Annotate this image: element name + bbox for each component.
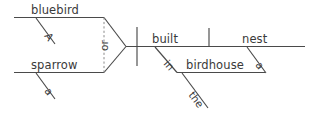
word-birdhouse-object: birdhouse — [186, 58, 244, 72]
subject-branch-bottom: sparrow a — [14, 47, 126, 100]
word-bluebird: bluebird — [31, 3, 79, 17]
sentence-diagram: bluebird A sparrow a or built — [0, 0, 313, 119]
word-a-bluebird-article: A — [42, 30, 56, 44]
predicate-group: built — [152, 32, 178, 46]
word-the-birdhouse-article: the — [186, 89, 206, 110]
word-nest-object: nest — [242, 32, 268, 46]
word-a-nest-article: a — [253, 59, 266, 71]
word-or-conjunction: or — [98, 40, 110, 51]
word-a-sparrow-article: a — [42, 85, 55, 97]
conjunction-group: or — [98, 18, 110, 73]
sentence-diagram-canvas: bluebird A sparrow a or built — [0, 0, 313, 119]
prepositional-phrase-group: in birdhouse the — [155, 47, 265, 110]
subject-branch-top: bluebird A — [14, 3, 126, 47]
word-sparrow: sparrow — [31, 58, 77, 72]
direct-object-group: nest a — [242, 32, 268, 73]
word-built-verb: built — [152, 32, 178, 46]
